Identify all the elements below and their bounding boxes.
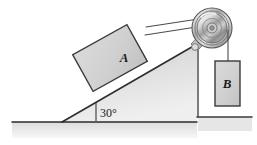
pulley-axle xyxy=(210,26,214,30)
block-a-label: A xyxy=(119,50,129,65)
incline-angle-label: 30° xyxy=(100,106,117,120)
block-b-label: B xyxy=(222,76,232,91)
pulley-group xyxy=(191,8,232,50)
pulley-arm-anchor xyxy=(192,44,199,51)
diagram-canvas: 30° A xyxy=(0,0,257,145)
physics-diagram-figure: 30° A xyxy=(0,0,257,145)
base-platform-shading xyxy=(198,117,252,131)
ground-shading xyxy=(12,122,197,138)
